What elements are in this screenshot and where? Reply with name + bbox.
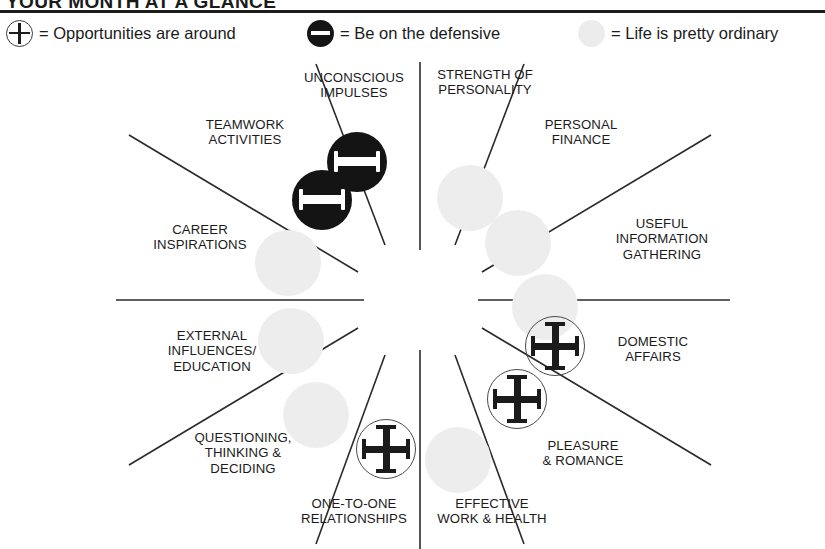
legend-label-opportunities: = Opportunities are around bbox=[39, 24, 236, 43]
minus-circle-icon bbox=[307, 20, 334, 47]
legend-item-opportunities: = Opportunities are around bbox=[6, 15, 236, 51]
sector-label-useful-information-gathering: USEFUL INFORMATION GATHERING bbox=[600, 216, 724, 262]
legend-label-ordinary: = Life is pretty ordinary bbox=[611, 24, 778, 43]
legend-item-ordinary: = Life is pretty ordinary bbox=[578, 15, 778, 51]
legend-item-defensive: = Be on the defensive bbox=[307, 15, 500, 51]
legend-label-defensive: = Be on the defensive bbox=[340, 24, 500, 43]
month-at-a-glance-page: YOUR MONTH AT A GLANCE = Opportunities a… bbox=[0, 0, 825, 549]
sector-label-unconscious-impulses: UNCONSCIOUS IMPULSES bbox=[292, 70, 416, 101]
symbol-ordinary-questioning-thinking-deciding bbox=[283, 382, 349, 448]
symbol-defensive-unconscious-impulses bbox=[327, 132, 387, 192]
symbol-ordinary-career-inspirations bbox=[255, 230, 321, 296]
sector-label-teamwork-activities: TEAMWORK ACTIVITIES bbox=[182, 117, 308, 148]
sector-label-domestic-affairs: DOMESTIC AFFAIRS bbox=[598, 334, 708, 365]
sector-label-pleasure-and-romance: PLEASURE & ROMANCE bbox=[527, 438, 639, 469]
sector-label-effective-work-and-health: EFFECTIVE WORK & HEALTH bbox=[424, 496, 560, 527]
plus-circle-icon bbox=[6, 20, 33, 47]
sector-label-strength-of-personality: STRENGTH OF PERSONALITY bbox=[426, 67, 544, 98]
sector-label-one-to-one-relationships: ONE-TO-ONE RELATIONSHIPS bbox=[292, 496, 416, 527]
symbol-ordinary-effective-work-and-health bbox=[425, 427, 491, 493]
symbol-opportunity-pleasure-and-romance bbox=[487, 369, 547, 429]
symbol-opportunity-one-to-one-relationships bbox=[356, 419, 416, 479]
sector-label-personal-finance: PERSONAL FINANCE bbox=[523, 117, 639, 148]
legend: = Opportunities are around = Be on the d… bbox=[0, 15, 825, 51]
symbol-ordinary-personal-finance bbox=[485, 210, 551, 276]
title-divider bbox=[0, 10, 825, 13]
sector-label-questioning-thinking-deciding: QUESTIONING, THINKING & DECIDING bbox=[180, 430, 306, 476]
gray-dot-icon bbox=[578, 20, 605, 47]
sector-label-external-influences-education: EXTERNAL INFLUENCES/ EDUCATION bbox=[150, 328, 274, 374]
symbol-ordinary-external-influences-education bbox=[258, 308, 324, 374]
symbol-opportunity-domestic-affairs bbox=[525, 316, 585, 376]
life-areas-wheel: STRENGTH OF PERSONALITY PERSONAL FINANCE… bbox=[0, 52, 825, 549]
sector-label-career-inspirations: CAREER INSPIRATIONS bbox=[140, 222, 260, 253]
